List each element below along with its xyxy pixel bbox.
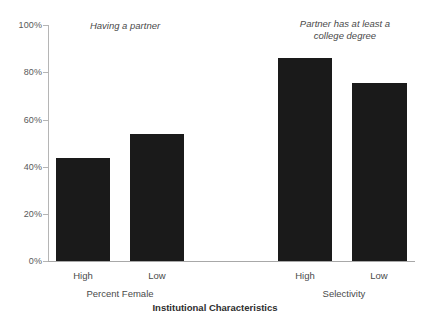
bar-selectivity-low xyxy=(352,83,407,261)
plot-area xyxy=(48,25,415,261)
annotation-having-a-partner: Having a partner xyxy=(55,20,195,32)
bar-percent-female-low xyxy=(130,134,184,261)
category-label-selectivity-high: High xyxy=(277,270,333,281)
y-tick-label-80: 80% xyxy=(24,68,42,77)
group-label-selectivity: Selectivity xyxy=(284,288,404,299)
y-tick-label-20: 20% xyxy=(24,210,42,219)
bar-chart: 100% 80% 60% 40% 20% 0% Having a partner… xyxy=(0,0,430,322)
annotation-partner-college-degree: Partner has at least a college degree xyxy=(270,18,420,42)
x-axis-title: Institutional Characteristics xyxy=(0,302,430,313)
category-label-selectivity-low: Low xyxy=(351,270,407,281)
bar-percent-female-high xyxy=(56,158,110,261)
y-tick-label-60: 60% xyxy=(24,116,42,125)
y-tick-label-0: 0% xyxy=(29,257,42,266)
bar-selectivity-high xyxy=(278,58,332,261)
y-tick-label-100: 100% xyxy=(19,21,42,30)
y-tick-label-40: 40% xyxy=(24,163,42,172)
group-label-percent-female: Percent Female xyxy=(60,288,180,299)
category-label-percent-female-low: Low xyxy=(129,270,185,281)
category-label-percent-female-high: High xyxy=(55,270,111,281)
y-tick-mark-0 xyxy=(43,261,48,262)
x-axis-line xyxy=(48,261,415,262)
